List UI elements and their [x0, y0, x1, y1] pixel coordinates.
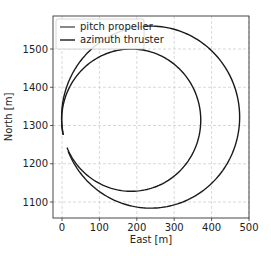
y-axis-label: North [m]: [3, 93, 14, 142]
legend: pitch propeller azimuth thruster: [56, 19, 165, 49]
x-tick-label: 300: [165, 222, 184, 233]
y-axis: 11001200130014001500: [23, 44, 53, 208]
x-axis: 0100200300400500: [59, 218, 259, 233]
x-tick-label: 200: [127, 222, 146, 233]
y-tick-label: 1400: [23, 82, 48, 93]
legend-label-pitch-propeller: pitch propeller: [80, 21, 154, 32]
x-tick-label: 100: [90, 222, 109, 233]
trajectory-chart: 0100200300400500 11001200130014001500 Ea…: [0, 0, 271, 256]
x-tick-label: 0: [59, 222, 65, 233]
x-tick-label: 400: [202, 222, 221, 233]
y-tick-label: 1100: [23, 197, 48, 208]
y-tick-label: 1500: [23, 44, 48, 55]
x-axis-label: East [m]: [130, 234, 172, 245]
y-tick-label: 1300: [23, 120, 48, 131]
legend-label-azimuth-thruster: azimuth thruster: [80, 34, 165, 45]
x-tick-label: 500: [239, 222, 258, 233]
y-tick-label: 1200: [23, 158, 48, 169]
